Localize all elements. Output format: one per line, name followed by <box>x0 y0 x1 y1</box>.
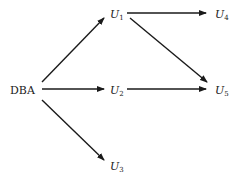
node-u4: U4 <box>215 8 229 22</box>
edge-u1-to-u5-arrow-icon <box>130 18 207 82</box>
nodes: DBAU1U2U3U4U5 <box>10 8 229 174</box>
node-subscript: 4 <box>224 14 229 22</box>
node-u1: U1 <box>110 8 124 22</box>
node-dba: DBA <box>10 84 36 97</box>
node-subscript: 2 <box>119 90 123 98</box>
node-subscript: 3 <box>119 166 123 174</box>
node-u3: U3 <box>110 160 124 174</box>
node-subscript: 5 <box>224 90 228 98</box>
node-u2: U2 <box>110 84 124 98</box>
edge-dba-to-u3-arrow-icon <box>42 100 104 160</box>
node-label: DBA <box>10 84 36 97</box>
edges <box>42 13 207 160</box>
node-u5: U5 <box>215 84 229 98</box>
node-subscript: 1 <box>119 14 123 22</box>
authorization-graph: DBAU1U2U3U4U5 <box>0 0 238 183</box>
edge-dba-to-u1-arrow-icon <box>42 18 104 82</box>
